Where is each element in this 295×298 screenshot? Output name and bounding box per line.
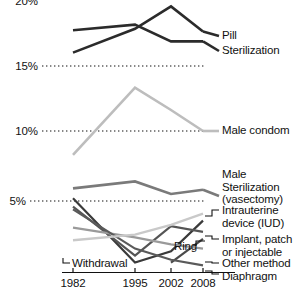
series-lines — [73, 6, 219, 265]
series-line-sterilization — [73, 25, 203, 42]
series-line-male-sterilization-vasectomy — [73, 181, 203, 194]
series-label-withdrawal: Withdrawal — [72, 257, 127, 269]
series-label-ring: Ring — [174, 240, 197, 252]
series-label-sterilization: Sterilization — [222, 44, 280, 57]
x-tick-label-2008: 2008 — [183, 277, 223, 289]
series-label-diaphragm: Diaphragm — [222, 270, 277, 283]
series-leader-male-sterilization-vasectomy — [203, 190, 219, 196]
series-label-male-condom: Male condom — [222, 124, 289, 137]
leader-other-method — [205, 262, 219, 263]
x-tick-label-1982: 1982 — [53, 277, 93, 289]
gridlines — [30, 0, 205, 201]
contraceptive-use-line-chart: 20% 15% 10% 5% 1982 1995 2002 2008 Pill … — [0, 0, 295, 298]
y-tick-label-5: 5% — [0, 195, 26, 207]
series-label-other-method: Other method — [222, 257, 291, 270]
series-label-implant: Implant, patch or injectable — [222, 233, 292, 258]
series-label-pill: Pill — [222, 29, 237, 42]
series-leader-sterilization — [203, 41, 219, 51]
leader-implant — [205, 236, 219, 239]
series-line-male-condom — [73, 88, 203, 155]
leader-iud — [205, 210, 219, 216]
y-tick-label-10: 10% — [0, 125, 38, 137]
series-label-iud: Intrauterine device (IUD) — [222, 204, 284, 229]
y-tick-label-15: 15% — [0, 60, 38, 72]
y-tick-label-20: 20% — [0, 0, 38, 7]
series-leader-pill — [203, 32, 219, 36]
series-label-male-sterilization: Male Sterilization (vasectomy) — [222, 168, 283, 206]
leader-withdrawal — [63, 258, 70, 263]
x-tick-label-1995: 1995 — [115, 277, 155, 289]
